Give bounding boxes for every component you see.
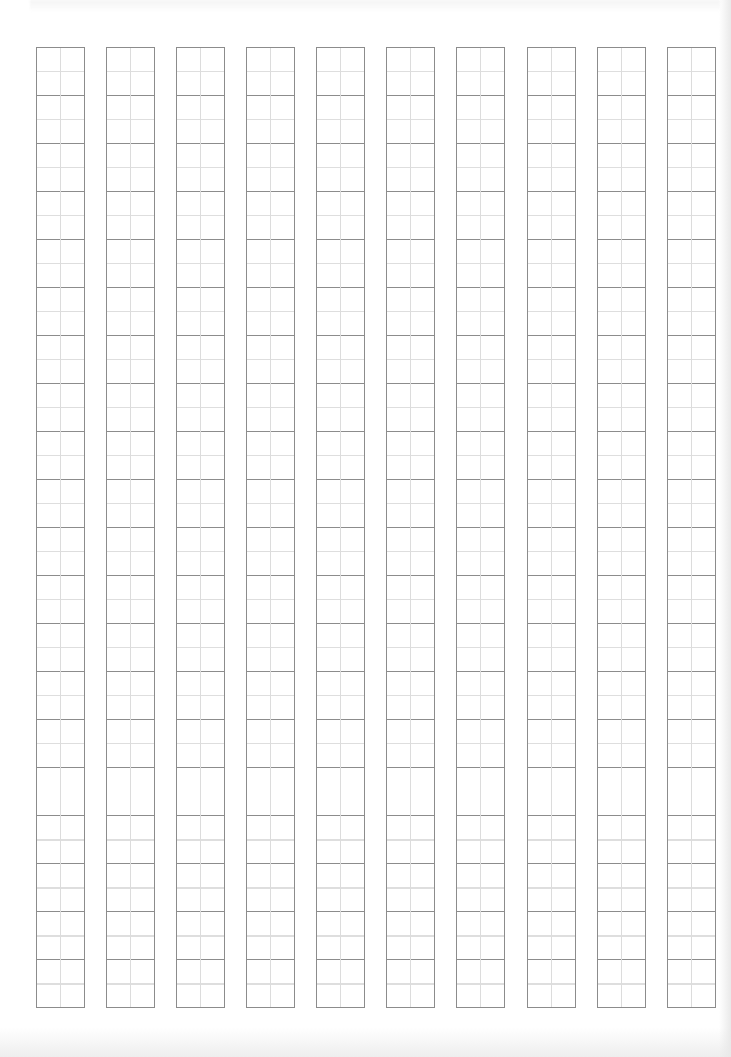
worksheet-page: [0, 0, 731, 1057]
grid-column-10: [667, 47, 716, 1008]
grid-column-7: [456, 47, 505, 1008]
grid-column-6: [386, 47, 435, 1008]
grid-column-1: [36, 47, 85, 1008]
bleed-through-band-bottom: [0, 1027, 731, 1057]
grid-column-4: [246, 47, 295, 1008]
grid-column-3: [176, 47, 225, 1008]
page-edge-shadow: [719, 0, 731, 1057]
grid-column-8: [527, 47, 576, 1008]
bleed-through-text-top: [30, 0, 720, 12]
grid-column-9: [597, 47, 646, 1008]
grid-column-5: [316, 47, 365, 1008]
grid-column-2: [106, 47, 155, 1008]
